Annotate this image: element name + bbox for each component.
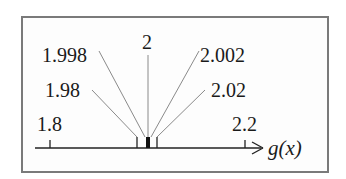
leader-1-98 bbox=[92, 90, 137, 137]
leader-1-998 bbox=[99, 51, 145, 137]
label-1-8: 1.8 bbox=[37, 113, 62, 135]
label-2-02: 2.02 bbox=[211, 79, 246, 101]
axis-label-g-of-x: g(x) bbox=[268, 136, 302, 160]
number-line-diagram: 1.998 1.98 2 2.002 2.02 1.8 2.2 g(x) bbox=[0, 0, 346, 179]
interval-1-998-to-2-002 bbox=[146, 137, 150, 148]
label-2-2: 2.2 bbox=[232, 113, 257, 135]
label-2: 2 bbox=[142, 31, 152, 53]
label-1-998: 1.998 bbox=[42, 44, 87, 66]
label-2-002: 2.002 bbox=[200, 44, 245, 66]
label-1-98: 1.98 bbox=[45, 79, 80, 101]
leader-2-002 bbox=[151, 51, 199, 137]
